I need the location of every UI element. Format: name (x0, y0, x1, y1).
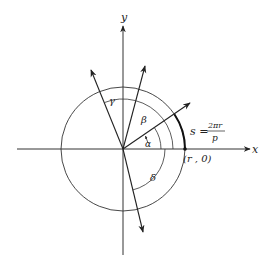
angle-label-gamma: γ (109, 95, 115, 106)
arc-delta (133, 149, 166, 190)
arc-length-formula: s = 2πr p (190, 121, 225, 143)
arc-s (174, 114, 185, 149)
formula-numerator: 2πr (207, 121, 223, 130)
angle-diagram: x y (r , 0) α β γ δ s = 2πr p (0, 0, 268, 264)
angle-label-alpha: α (145, 139, 151, 149)
ray-delta (123, 149, 143, 232)
angle-label-delta: δ (150, 172, 156, 183)
arc-alpha (155, 128, 162, 149)
formula-lhs: s = (190, 125, 208, 138)
y-axis-label: y (120, 11, 128, 24)
angle-label-beta: β (140, 114, 147, 125)
point-r-0 (183, 147, 187, 151)
point-label: (r , 0) (183, 153, 212, 164)
ray-gamma (91, 70, 123, 149)
formula-denominator: p (212, 133, 218, 143)
diagram-canvas: x y (r , 0) α β γ δ s = 2πr p (0, 0, 268, 264)
x-axis-label: x (252, 143, 259, 156)
